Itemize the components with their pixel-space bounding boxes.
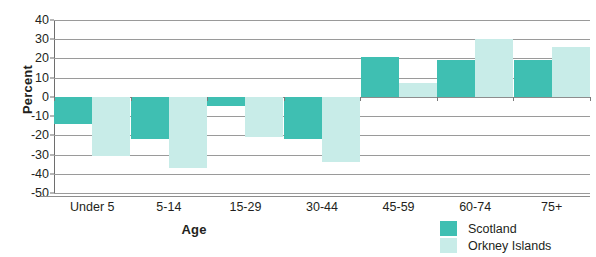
y-axis-tick-label: 30 xyxy=(35,33,49,46)
y-axis-tick-label: -30 xyxy=(31,148,49,161)
x-axis-tick-label: Under 5 xyxy=(70,200,114,214)
x-axis-tick-label: 60-74 xyxy=(459,200,491,214)
gridline xyxy=(54,174,590,175)
x-axis-tick-label: 5-14 xyxy=(156,200,181,214)
bar xyxy=(207,97,245,107)
bar xyxy=(552,47,590,97)
y-axis-tick xyxy=(50,193,54,194)
legend-item: Orkney Islands xyxy=(440,237,551,254)
bar xyxy=(54,97,92,124)
bar xyxy=(131,97,169,139)
y-axis-tick xyxy=(50,39,54,40)
category-tick xyxy=(54,97,55,101)
category-tick xyxy=(207,97,208,101)
y-axis-tick xyxy=(50,173,54,174)
bar xyxy=(361,57,399,97)
bar xyxy=(322,97,360,162)
y-axis-tick xyxy=(50,58,54,59)
x-axis-tick-label: 30-44 xyxy=(306,200,338,214)
category-tick xyxy=(590,97,591,101)
category-tick xyxy=(437,97,438,101)
y-axis-tick-label: 40 xyxy=(35,14,49,27)
x-axis-line xyxy=(40,196,590,197)
y-axis-tick-label: 0 xyxy=(42,91,49,104)
legend-item: Scotland xyxy=(440,220,551,237)
category-tick xyxy=(284,97,285,101)
x-axis-tick-label: 15-29 xyxy=(229,200,261,214)
y-axis-tick-label: -50 xyxy=(31,187,49,200)
bar-chart: Percent 403020100-10-20-30-40-50 Under 5… xyxy=(0,0,596,257)
bar xyxy=(284,97,322,139)
category-tick xyxy=(131,97,132,101)
x-axis-title: Age xyxy=(54,222,334,237)
category-tick xyxy=(513,97,514,101)
plot-area: 403020100-10-20-30-40-50 xyxy=(54,20,590,193)
bar xyxy=(169,97,207,168)
bar xyxy=(437,60,475,97)
category-tick xyxy=(360,97,361,101)
chart-legend: ScotlandOrkney Islands xyxy=(440,220,551,254)
bar xyxy=(92,97,130,157)
y-axis-tick-label: -40 xyxy=(31,168,49,181)
y-axis-tick-label: -20 xyxy=(31,129,49,142)
bar xyxy=(475,39,513,97)
y-axis-tick xyxy=(50,135,54,136)
y-axis-tick-label: 10 xyxy=(35,71,49,84)
y-axis-tick-label: -10 xyxy=(31,110,49,123)
gridline xyxy=(54,193,590,194)
y-axis-tick xyxy=(50,154,54,155)
bar xyxy=(514,60,552,97)
legend-label: Scotland xyxy=(468,222,517,236)
legend-swatch-icon xyxy=(440,221,457,236)
legend-swatch-icon xyxy=(440,238,457,253)
gridline xyxy=(54,20,590,21)
x-axis-tick-label: 45-59 xyxy=(383,200,415,214)
x-axis-tick-label: 75+ xyxy=(541,200,562,214)
legend-label: Orkney Islands xyxy=(468,239,551,253)
y-axis-tick-label: 20 xyxy=(35,52,49,65)
y-axis-tick xyxy=(50,20,54,21)
y-axis-tick xyxy=(50,77,54,78)
bar xyxy=(245,97,283,137)
bar xyxy=(399,83,437,96)
